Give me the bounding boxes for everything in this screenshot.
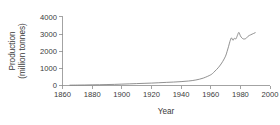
- y-tick-label-1000: 1000: [40, 64, 57, 73]
- x-axis-title: Year: [158, 107, 175, 116]
- y-tick-label-3000: 3000: [40, 30, 57, 39]
- x-tick-label-1900: 1900: [113, 90, 130, 99]
- y-axis-title-line2: (million tonnes): [18, 23, 27, 79]
- x-tick-label-2000: 2000: [262, 90, 279, 99]
- y-axis-title-line1: Production: [8, 31, 17, 71]
- y-tick-label-4000: 4000: [40, 13, 57, 22]
- x-tick-label-1980: 1980: [232, 90, 249, 99]
- production-line-chart: 0 1000 2000 3000 4000 1860 1880 1900 192…: [0, 0, 280, 125]
- chart-figure: 0 1000 2000 3000 4000 1860 1880 1900 192…: [0, 0, 280, 125]
- x-tick-label-1880: 1880: [84, 90, 101, 99]
- y-tick-label-2000: 2000: [40, 47, 57, 56]
- x-tick-label-1920: 1920: [143, 90, 160, 99]
- x-tick-label-1940: 1940: [173, 90, 190, 99]
- x-tick-label-1960: 1960: [202, 90, 219, 99]
- x-tick-label-1860: 1860: [54, 90, 71, 99]
- y-tick-label-0: 0: [53, 81, 57, 90]
